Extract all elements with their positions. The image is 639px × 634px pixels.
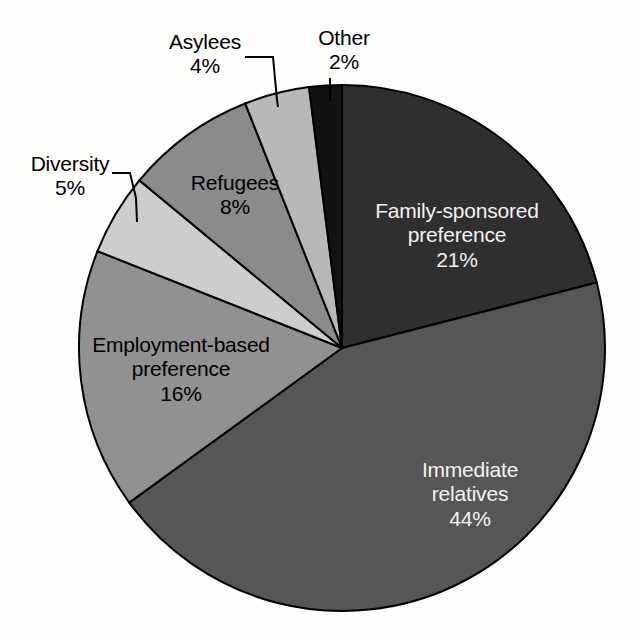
pie-slices bbox=[79, 85, 605, 611]
pie-chart-figure: Other 2% Asylees 4% Diversity 5% Refugee… bbox=[0, 0, 639, 634]
pie-chart-svg bbox=[0, 0, 639, 634]
